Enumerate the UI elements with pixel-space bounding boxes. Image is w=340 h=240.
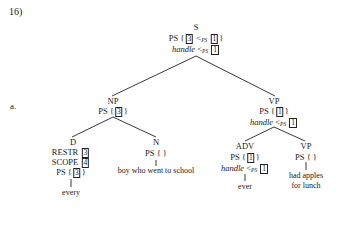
node-vp2-word-line2: for lunch: [291, 181, 320, 191]
brace: }: [82, 167, 86, 177]
handle-label: handle: [172, 44, 195, 54]
tag-box: 1: [247, 153, 255, 163]
node-n-word: boy who went to school: [118, 166, 194, 176]
tag-box: 3: [115, 107, 123, 117]
node-s-category: S: [194, 22, 199, 32]
tag-box: 1: [260, 164, 268, 174]
node-n-category: N: [153, 137, 159, 147]
ps-subscript: PS: [202, 48, 208, 54]
tag-box: 3: [185, 34, 193, 44]
ps-subscript: PS: [251, 167, 257, 173]
handle-label: handle: [221, 163, 244, 173]
ps-subscript: PS: [201, 37, 207, 43]
brace: }: [256, 152, 260, 162]
node-vp-ps: PS {1}: [259, 106, 289, 117]
scope-label: SCOPE: [52, 157, 78, 167]
node-np-ps: PS {3}: [98, 106, 128, 117]
node-adv-category: ADV: [236, 141, 254, 151]
branch-vp-vp: [274, 127, 305, 141]
node-vp2-ps: PS { }: [295, 152, 317, 162]
node-d-category: D: [70, 137, 76, 147]
tag-box: 1: [210, 34, 218, 44]
node-adv-ps: PS {1}: [230, 152, 260, 163]
brace: }: [285, 106, 289, 116]
node-s-handle: handle <PS 1: [172, 44, 220, 56]
ps-subscript: PS: [280, 121, 286, 127]
node-np-category: NP: [108, 96, 119, 106]
node-n-ps: PS { }: [145, 148, 167, 158]
branch-s-vp: [196, 56, 275, 96]
ps-label: PS {: [169, 33, 185, 43]
branch-s-np: [112, 56, 196, 96]
ps-label: PS {: [98, 106, 114, 116]
node-vp-handle: handle <PS 1: [250, 117, 298, 129]
branch-vp-adv: [245, 127, 274, 141]
tag-box: 3: [73, 168, 81, 178]
node-d-ps: PS {3}: [56, 167, 86, 178]
node-vp-category: VP: [269, 96, 280, 106]
handle-label: handle: [250, 117, 273, 127]
tag-box: 1: [276, 107, 284, 117]
ps-label: PS {: [230, 152, 246, 162]
node-adv-handle: handle <PS 1: [221, 163, 269, 175]
branch-np-n: [113, 117, 156, 137]
ps-label: PS {: [259, 106, 275, 116]
node-d-word: every: [62, 188, 80, 198]
restr-label: RESTR: [52, 147, 78, 157]
node-vp2-word-line1: had apples: [289, 171, 323, 181]
brace: }: [124, 106, 128, 116]
tag-box: 1: [289, 118, 297, 128]
branch-np-d: [72, 117, 113, 137]
node-adv-word: ever: [238, 182, 252, 192]
ps-label: PS {: [56, 167, 72, 177]
brace: }: [219, 33, 223, 43]
tag-box: 1: [211, 45, 219, 55]
node-vp2-category: VP: [301, 141, 312, 151]
